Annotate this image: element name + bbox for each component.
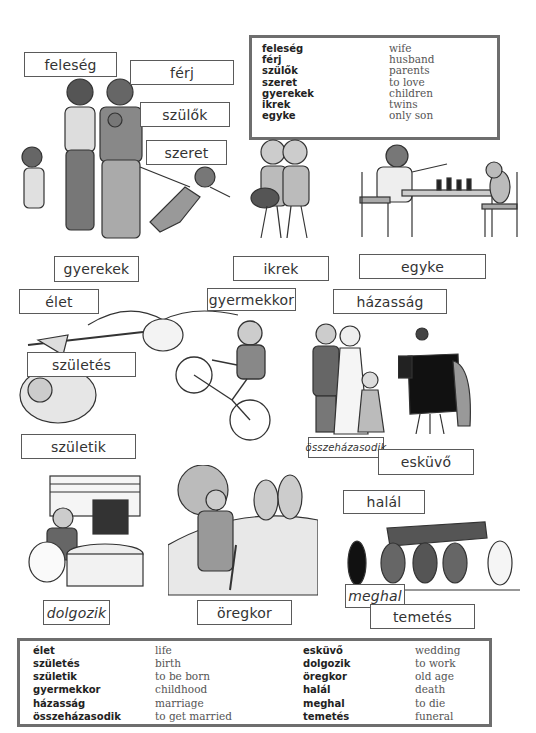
label-szuletes: születés	[27, 352, 136, 377]
label-ferj: férj	[130, 60, 234, 85]
label-ikrek: ikrek	[233, 256, 329, 281]
label-dolgozik: dolgozik	[43, 600, 110, 625]
vocabulary-box-family: feleségwife férjhusband szülőkparents sz…	[249, 35, 500, 140]
vocab-row: esküvőwedding	[303, 645, 483, 658]
boy-playing-chess-with-cat	[352, 142, 527, 242]
label-egyke: egyke	[359, 254, 486, 279]
label-szulok: szülők	[140, 102, 230, 127]
label-elet: élet	[19, 289, 99, 314]
wedding-couple	[308, 322, 388, 437]
vocab-row: szülőkparents	[262, 65, 434, 76]
vocab-row: temetésfuneral	[303, 711, 483, 724]
vocabulary-table: feleségwife férjhusband szülőkparents sz…	[262, 43, 434, 121]
vocabulary-table-left: életlife születésbirth születikto be bor…	[33, 645, 303, 724]
label-szeret: szeret	[146, 140, 227, 165]
boy-on-bicycle	[172, 315, 292, 450]
vocab-row: gyermekkorchildhood	[33, 684, 303, 697]
funeral-procession	[345, 518, 520, 593]
vocab-row: meghalto die	[303, 698, 483, 711]
label-temetes: temetés	[370, 604, 475, 629]
label-gyermekkor: gyermekkor	[207, 288, 296, 311]
man-at-computer	[25, 472, 145, 592]
vocab-row: öregkorold age	[303, 671, 483, 684]
label-gyerekek: gyerekek	[54, 256, 139, 282]
label-oregkor: öregkor	[197, 600, 292, 625]
vocab-row: összeházasodikto get married	[33, 711, 303, 724]
vocabulary-box-life: életlife születésbirth születikto be bor…	[17, 638, 492, 727]
wedding-photographer	[398, 326, 478, 436]
vocab-row: dolgozikto work	[303, 658, 483, 671]
label-szuletik: születik	[21, 434, 136, 459]
vocab-row: egykeonly son	[262, 110, 434, 121]
vocab-row: haláldeath	[303, 684, 483, 697]
label-hazassag: házasság	[333, 289, 447, 314]
vocabulary-table-right: esküvőwedding dolgozikto work öregkorold…	[303, 645, 483, 724]
label-osszehazasodik: összeházasodik	[308, 437, 384, 458]
label-eskuvo: esküvő	[378, 449, 474, 475]
label-halal: halál	[343, 490, 425, 514]
old-man-with-cane	[168, 465, 318, 605]
twins-illustration	[243, 138, 323, 248]
vocab-row: házasságmarriage	[33, 698, 303, 711]
label-feleseg: feleség	[24, 52, 117, 77]
